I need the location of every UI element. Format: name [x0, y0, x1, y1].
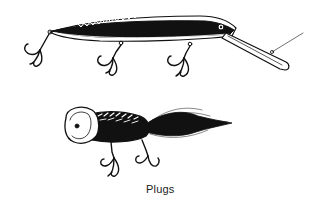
popper-plug-drawing [65, 107, 232, 176]
plugs-illustration [0, 0, 320, 212]
minnow-plug-drawing [25, 5, 303, 76]
figure-caption: Plugs [146, 183, 175, 195]
figure-page: Plugs [0, 0, 320, 212]
